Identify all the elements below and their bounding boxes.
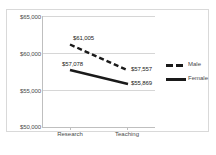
data-label-female-research: $57,078 — [62, 61, 83, 67]
data-label-male-research: $61,005 — [73, 35, 94, 41]
legend-swatch-dashed-icon — [166, 64, 186, 67]
data-label-female-teaching: $55,869 — [131, 80, 152, 86]
data-label-male-teaching: $57,557 — [131, 66, 152, 72]
legend-item-male[interactable]: Male — [166, 58, 212, 72]
legend-label-female: Female — [188, 75, 208, 81]
legend-item-female[interactable]: Female — [166, 72, 212, 86]
series-line-female — [70, 70, 128, 84]
legend-swatch-solid-icon — [166, 78, 186, 81]
legend-label-male: Male — [188, 61, 201, 67]
chart-legend: Male Female — [166, 58, 212, 86]
